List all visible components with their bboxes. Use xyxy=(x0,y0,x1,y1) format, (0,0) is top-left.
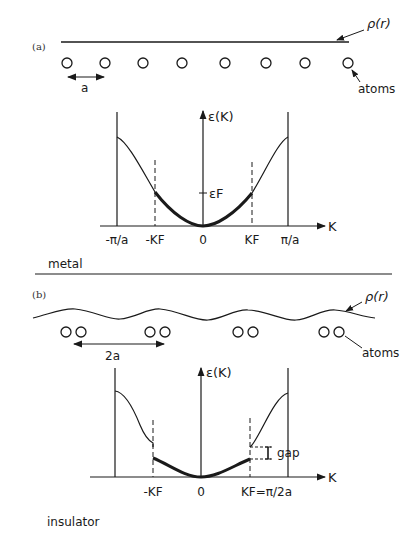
gap-marker xyxy=(250,447,272,459)
material-label-insulator: insulator xyxy=(47,515,100,529)
band-curve-left xyxy=(117,137,155,192)
atom xyxy=(61,327,71,337)
panel-b-label: (b) xyxy=(32,289,46,300)
density-label: ρ(r) xyxy=(367,16,391,31)
atom xyxy=(334,327,344,337)
tick-label: π/a xyxy=(281,233,300,247)
atom xyxy=(233,327,243,337)
atom xyxy=(160,327,170,337)
atom xyxy=(261,58,271,68)
tick-label: -KF xyxy=(143,485,162,499)
band-chart-a: K ε(K) εF -π/a -KF 0 KF π/a xyxy=(100,109,337,247)
spacing-label: a xyxy=(81,81,88,95)
gap-label: gap xyxy=(277,446,300,460)
density-label: ρ(r) xyxy=(365,289,389,304)
atom-row-b xyxy=(61,327,344,337)
tick-label: KF=π/2a xyxy=(241,485,292,499)
spacing-label: 2a xyxy=(105,349,120,363)
atom xyxy=(319,327,329,337)
band-structure-diagram: (a) ρ(r) atoms a K ε(K) xyxy=(0,0,407,542)
upper-band-right xyxy=(250,393,288,447)
atom xyxy=(343,58,353,68)
atom xyxy=(300,58,310,68)
atom xyxy=(220,58,230,68)
tick-label: 0 xyxy=(197,485,205,499)
tick-label: -π/a xyxy=(106,233,129,247)
modulated-density-wave xyxy=(33,309,375,320)
atom xyxy=(100,58,110,68)
material-label-metal: metal xyxy=(48,257,82,271)
atoms-pointer-arrow xyxy=(352,70,360,82)
k-axis-label: K xyxy=(328,470,337,485)
atom xyxy=(76,327,86,337)
panel-b: (b) ρ(r) atoms 2a K ε(K) xyxy=(32,289,399,529)
atom xyxy=(138,58,148,68)
tick-label: -KF xyxy=(145,233,164,247)
density-pointer-arrow xyxy=(346,302,362,311)
upper-band-left xyxy=(115,391,153,447)
energy-axis-label: ε(K) xyxy=(206,365,232,380)
panel-a: (a) ρ(r) atoms a K ε(K) xyxy=(32,16,395,271)
energy-axis-label: ε(K) xyxy=(208,109,234,124)
panel-a-label: (a) xyxy=(32,41,46,52)
band-curve-right xyxy=(252,137,288,193)
atom-row-a xyxy=(62,58,353,68)
atoms-label: atoms xyxy=(362,346,399,360)
atoms-pointer-line xyxy=(345,336,362,348)
density-pointer-arrow xyxy=(337,30,364,40)
tick-label: 0 xyxy=(199,233,207,247)
atom xyxy=(62,58,72,68)
band-chart-b: K ε(K) gap -KF 0 KF=π/2a xyxy=(90,365,337,499)
atom xyxy=(177,58,187,68)
k-axis-label: K xyxy=(328,219,337,234)
atoms-label: atoms xyxy=(358,82,395,96)
tick-label: KF xyxy=(245,233,260,247)
atom xyxy=(248,327,258,337)
atom xyxy=(145,327,155,337)
fermi-level-label: εF xyxy=(209,186,224,201)
